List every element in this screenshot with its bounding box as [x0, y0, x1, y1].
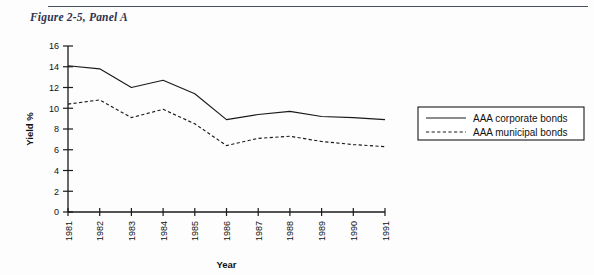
- y-tick-label: 2: [54, 187, 59, 197]
- legend-label-0: AAA corporate bonds: [473, 113, 568, 124]
- y-tick-label: 12: [49, 83, 59, 93]
- y-tick-label: 16: [49, 41, 59, 51]
- x-tick-label: 1981: [64, 221, 74, 241]
- y-axis-title: Yield %: [24, 112, 35, 146]
- x-tick-label: 1989: [317, 221, 327, 241]
- legend-label-1: AAA municipal bonds: [473, 127, 568, 138]
- x-axis-title: Year: [216, 259, 236, 270]
- x-tick-label: 1990: [349, 221, 359, 241]
- y-tick-label: 4: [54, 166, 59, 176]
- line-chart: 0246810121416198119821983198419851986198…: [0, 0, 594, 275]
- x-tick-label: 1982: [95, 221, 105, 241]
- x-tick-label: 1984: [159, 221, 169, 241]
- series-line-municipal: [68, 100, 385, 147]
- y-tick-label: 6: [54, 145, 59, 155]
- x-tick-label: 1987: [254, 221, 264, 241]
- x-tick-label: 1988: [285, 221, 295, 241]
- y-tick-label: 0: [54, 207, 59, 217]
- x-tick-label: 1991: [381, 221, 391, 241]
- figure-container: Figure 2-5, Panel A 02468101214161981198…: [0, 0, 594, 275]
- x-tick-label: 1986: [222, 221, 232, 241]
- y-tick-label: 10: [49, 104, 59, 114]
- x-tick-label: 1985: [190, 221, 200, 241]
- y-tick-label: 8: [54, 124, 59, 134]
- x-tick-label: 1983: [127, 221, 137, 241]
- y-tick-label: 14: [49, 62, 59, 72]
- series-line-corporate: [68, 66, 385, 120]
